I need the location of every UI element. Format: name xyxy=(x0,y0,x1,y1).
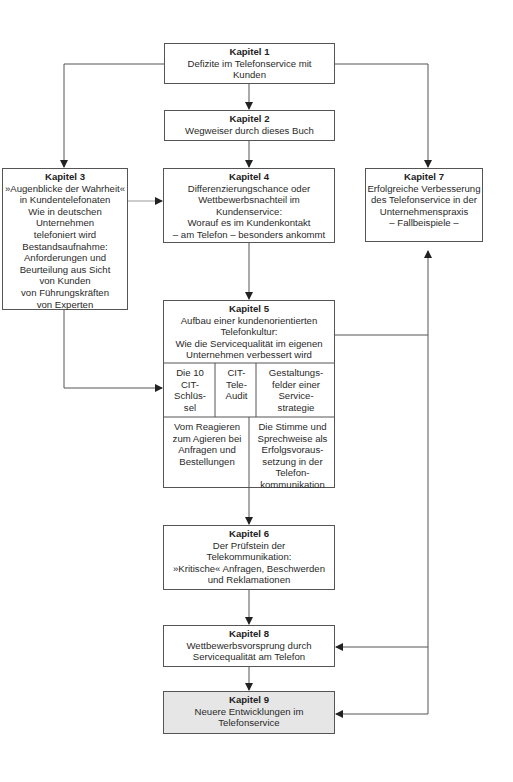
chapter-5-box: Kapitel 5 Aufbau einer kundenorientierte… xyxy=(163,300,335,488)
chapter-9-desc: Neuere Entwicklungen im Telefonservice xyxy=(164,706,334,729)
chapter-6-title: Kapitel 6 xyxy=(164,528,334,540)
chapter-7-box: Kapitel 7 Erfolgreiche Verbesserung des … xyxy=(365,168,483,242)
chapter-6-box: Kapitel 6 Der Prüfstein der Telekommunik… xyxy=(163,525,335,590)
chapter-4-box: Kapitel 4 Differenzierungschance oder We… xyxy=(163,168,335,243)
chapter-5-cell-service-strategy: Gestaltungs- felder einer Service- strat… xyxy=(257,364,335,413)
chapter-3-box: Kapitel 3 »Augenblicke der Wahrheit« in … xyxy=(2,168,128,310)
chapter-5-cell-react-to-act: Vom Reagieren zum Agieren bei Anfragen u… xyxy=(164,418,250,467)
chapter-4-desc: Differenzierungschance oder Wettbewerbsn… xyxy=(164,183,334,241)
chapter-9-box: Kapitel 9 Neuere Entwicklungen im Telefo… xyxy=(163,691,335,734)
chapter-4-title: Kapitel 4 xyxy=(164,171,334,183)
chapter-2-title: Kapitel 2 xyxy=(165,113,334,125)
chapter-5-cell-cit-audit: CIT- Tele- Audit xyxy=(216,364,257,402)
chapter-6-desc: Der Prüfstein der Telekommunikation: »Kr… xyxy=(164,540,334,586)
chapter-2-box: Kapitel 2 Wegweiser durch dieses Buch xyxy=(164,110,335,141)
chapter-8-desc: Wettbewerbsvorsprung durch Servicequalit… xyxy=(164,640,334,663)
chapter-1-desc: Defizite im Telefonservice mit Kunden xyxy=(165,58,334,81)
chapter-1-box: Kapitel 1 Defizite im Telefonservice mit… xyxy=(164,43,335,84)
chapter-7-desc: Erfolgreiche Verbesserung des Telefonser… xyxy=(366,183,482,229)
chapter-8-title: Kapitel 8 xyxy=(164,628,334,640)
chapter-9-title: Kapitel 9 xyxy=(164,694,334,706)
chapter-1-title: Kapitel 1 xyxy=(165,46,334,58)
chapter-3-title: Kapitel 3 xyxy=(3,171,127,183)
chapter-5-cell-voice: Die Stimme und Sprechweise als Erfolgsvo… xyxy=(250,418,335,491)
chapter-3-desc: »Augenblicke der Wahrheit« in Kundentele… xyxy=(3,183,127,311)
chapter-5-cell-cit-keys: Die 10 CIT- Schlüs- sel xyxy=(164,364,216,413)
chapter-2-desc: Wegweiser durch dieses Buch xyxy=(165,125,334,137)
chapter-8-box: Kapitel 8 Wettbewerbsvorsprung durch Ser… xyxy=(163,625,335,667)
chapter-7-title: Kapitel 7 xyxy=(366,171,482,183)
